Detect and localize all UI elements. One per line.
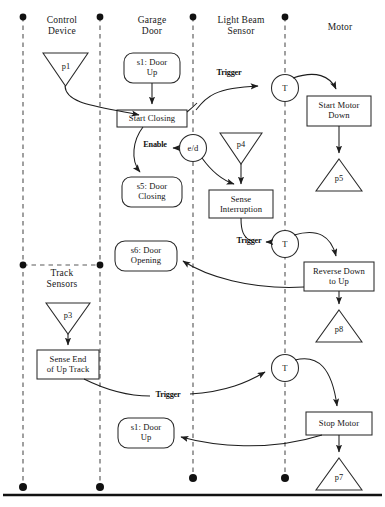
edge-start-closing-to-trigger1: [187, 103, 197, 112]
action-label-start-closing: Start Closing: [117, 113, 187, 123]
action-label-reverse-down-to-up: Reverse Down to Up: [304, 266, 374, 286]
edge-trigger3-to-t-bottom: [190, 372, 265, 394]
router-label-t-bottom: T: [271, 363, 299, 373]
lane-label-motor: Motor: [303, 22, 377, 33]
edge-label-trigger-2: Trigger: [224, 236, 274, 245]
lifeline-dot: [19, 483, 27, 491]
lane-label-track-sensors: Track Sensors: [27, 268, 97, 290]
edge-ed-to-sense-interruption: [202, 158, 234, 184]
lifeline-dot: [281, 474, 289, 482]
lifeline-dot: [190, 14, 197, 21]
edge-label-enable: Enable: [131, 140, 179, 149]
flow-edges: [65, 74, 339, 452]
lifeline-dot: [96, 483, 104, 491]
diagram-canvas: Control Device Garage Door Light Beam Se…: [0, 0, 385, 507]
edge-t-top-to-start-motor-down: [293, 74, 336, 89]
place-label-p8: p8: [322, 325, 356, 334]
place-label-p1: p1: [48, 62, 84, 71]
edge-t-mid-to-reverse: [294, 233, 336, 256]
router-label-t-mid: T: [271, 239, 299, 249]
state-label-s1-bottom: s1: Door Up: [118, 422, 174, 442]
action-label-start-motor-down: Start Motor Down: [307, 100, 371, 120]
place-label-p3: p3: [51, 311, 85, 320]
edge-reverse-to-s6: [183, 261, 304, 287]
lifeline-dot: [189, 474, 197, 482]
state-label-s6: s6: Door Opening: [115, 245, 177, 265]
action-label-stop-motor: Stop Motor: [306, 418, 372, 428]
lifeline-dot: [20, 262, 27, 269]
state-label-s1-top: s1: Door Up: [124, 57, 180, 77]
action-label-sense-interruption: Sense Interruption: [209, 194, 273, 214]
lifeline-dot: [97, 14, 104, 21]
edge-t-bottom-to-stop-motor: [295, 359, 337, 406]
edge-label-trigger-1: Trigger: [204, 68, 254, 77]
place-label-p5: p5: [322, 174, 356, 183]
diagram-svg: [0, 0, 385, 507]
lane-label-control-device: Control Device: [27, 15, 97, 37]
lane-label-light-beam-sensor: Light Beam Sensor: [203, 15, 279, 37]
place-label-p4: p4: [224, 140, 258, 149]
action-label-sense-end-of-up-track: Sense End of Up Track: [37, 354, 99, 374]
lifeline-dot: [20, 14, 27, 21]
state-label-s5: s5: Door Closing: [122, 181, 182, 201]
edge-start-closing-to-s5: [134, 127, 143, 172]
edge-trigger1-to-t-top: [196, 86, 258, 110]
edge-label-trigger-3: Trigger: [143, 390, 193, 399]
router-label-t-top: T: [271, 83, 299, 93]
lifeline-dot: [97, 262, 104, 269]
edge-stop-motor-to-s1-bottom: [181, 435, 322, 446]
router-label-ed: e/d: [179, 143, 207, 153]
edge-sense-end-to-trigger3: [84, 379, 150, 396]
lane-label-garage-door: Garage Door: [117, 15, 187, 37]
place-label-p7: p7: [322, 473, 356, 482]
lifeline-dot: [282, 14, 289, 21]
